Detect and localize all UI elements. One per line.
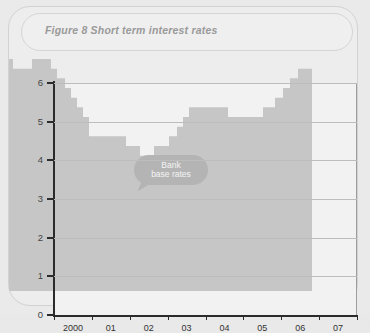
x-axis-tick bbox=[206, 315, 207, 320]
x-axis-tick bbox=[130, 315, 131, 320]
x-axis-tick-label: 2000 bbox=[53, 323, 93, 333]
y-axis-tick bbox=[47, 237, 53, 239]
figure-card: Figure 8 Short term interest rates % Ban… bbox=[8, 6, 358, 306]
x-axis-tick bbox=[243, 315, 244, 320]
x-axis-tick-label: 01 bbox=[91, 323, 131, 333]
y-axis-tick bbox=[47, 121, 53, 123]
gridline bbox=[54, 276, 357, 277]
y-axis-tick-label: 3 bbox=[21, 193, 43, 204]
x-axis-tick bbox=[357, 315, 358, 320]
chart-area: % Bank base rates 0123456200001020304050… bbox=[9, 59, 370, 321]
x-axis-tick bbox=[54, 315, 55, 320]
y-axis-tick bbox=[47, 159, 53, 161]
gridline bbox=[54, 83, 357, 84]
gridline bbox=[54, 199, 357, 200]
x-axis-tick bbox=[92, 315, 93, 320]
gridline bbox=[54, 122, 357, 123]
x-axis-tick-label: 03 bbox=[167, 323, 207, 333]
x-axis-tick bbox=[319, 315, 320, 320]
x-axis-tick-label: 04 bbox=[204, 323, 244, 333]
y-axis-tick-label: 4 bbox=[21, 154, 43, 165]
y-axis-tick bbox=[47, 198, 53, 200]
x-axis-tick-label: 07 bbox=[318, 323, 358, 333]
y-axis-tick-label: 1 bbox=[21, 270, 43, 281]
gridline bbox=[54, 238, 357, 239]
page-title: Figure 8 Short term interest rates bbox=[45, 24, 218, 36]
y-axis-tick bbox=[47, 275, 53, 277]
x-axis-tick bbox=[168, 315, 169, 320]
gridline bbox=[54, 160, 357, 161]
callout-line-2: base rates bbox=[151, 170, 191, 179]
y-axis-tick bbox=[47, 82, 53, 84]
x-axis-tick-label: 02 bbox=[129, 323, 169, 333]
y-axis-tick-label: 6 bbox=[21, 77, 43, 88]
y-axis-tick-label: 5 bbox=[21, 116, 43, 127]
y-axis-tick bbox=[47, 314, 53, 316]
x-axis-tick-label: 06 bbox=[280, 323, 320, 333]
x-axis-tick bbox=[281, 315, 282, 320]
x-axis-tick-label: 05 bbox=[242, 323, 282, 333]
y-axis-tick-label: 2 bbox=[21, 232, 43, 243]
y-axis-tick-label: 0 bbox=[21, 309, 43, 320]
